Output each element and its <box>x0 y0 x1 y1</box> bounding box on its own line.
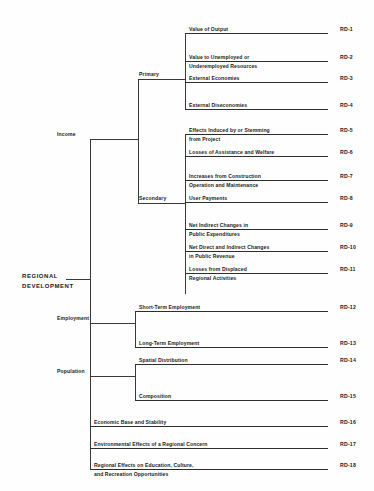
root-connector-line <box>66 279 90 280</box>
leaf-code-rd-12: RD-12 <box>340 304 356 311</box>
leaf-label-rd-8: User Payments <box>189 195 227 202</box>
employment-connector-line <box>90 323 135 324</box>
leaf-label-rd-16: Economic Base and Stability <box>94 419 166 426</box>
leaf-label-rd-6: Losses of Assistance and Welfare <box>189 149 274 156</box>
leaf-code-rd-9: RD-9 <box>340 222 353 229</box>
leaf-code-rd-16: RD-16 <box>340 419 356 426</box>
leaf-code-rd-5: RD-5 <box>340 127 353 134</box>
leaf-code-rd-15: RD-15 <box>340 393 356 400</box>
secondary-leaf-spine-line <box>185 134 186 294</box>
leaf-code-rd-13: RD-13 <box>340 340 356 347</box>
leaf-code-rd-17: RD-17 <box>340 441 356 448</box>
population-connector-line <box>90 376 135 377</box>
leaf-label-rd-14: Spatial Distribution <box>139 357 188 364</box>
leaf-label-rd-2: Value to Unemployed or <box>189 54 249 61</box>
leaf-rule-rd-1 <box>185 33 328 34</box>
leaf-label-rd-15: Composition <box>139 393 171 400</box>
leaf-code-rd-2: RD-2 <box>340 54 353 61</box>
leaf-rule-rd-6 <box>185 156 328 157</box>
leaf-label-rd-7: Increases from Construction <box>189 173 261 180</box>
leaf-rule-rd-2 <box>185 61 328 62</box>
leaf-label-rd-17: Environmental Effects of a Regional Conc… <box>94 441 208 448</box>
leaf-rule-rd-16 <box>90 426 328 427</box>
leaf-rule-rd-17 <box>90 448 328 449</box>
primary-connector-line <box>138 79 185 80</box>
leaf-rule-rd-15 <box>135 400 328 401</box>
leaf-code-rd-6: RD-6 <box>340 149 353 156</box>
income-connector-line <box>90 139 138 140</box>
leaf-code-rd-4: RD-4 <box>340 102 353 109</box>
leaf-label-rd-13: Long-Term Employment <box>139 340 199 347</box>
branch-label-secondary: Secondary <box>139 195 166 202</box>
leaf-label-rd-18: Regional Effects on Education, Culture, <box>94 462 194 469</box>
leaf-rule-rd-11 <box>185 273 328 274</box>
primary-leaf-spine-line <box>185 33 186 109</box>
root-label-development: DEVELOPMENT <box>22 281 74 292</box>
branch-label-income: Income <box>57 131 76 138</box>
leaf-label-rd-10-line2: in Public Revenue <box>189 253 235 260</box>
employment-leaf-spine-line <box>135 311 136 347</box>
leaf-rule-rd-14 <box>135 364 328 365</box>
secondary-connector-line <box>138 203 185 204</box>
leaf-code-rd-8: RD-8 <box>340 195 353 202</box>
population-leaf-spine-line <box>135 364 136 400</box>
leaf-rule-rd-10 <box>185 251 328 252</box>
leaf-label-rd-2-line2: Underemployed Resources <box>189 63 257 70</box>
branch-label-population: Population <box>57 368 85 375</box>
leaf-label-rd-5: Effects Induced by or Stemming <box>189 127 270 134</box>
leaf-rule-rd-3 <box>185 82 328 83</box>
leaf-label-rd-10: Net Direct and Indirect Changes <box>189 244 269 251</box>
leaf-label-rd-12: Short-Term Employment <box>139 304 200 311</box>
branch-label-employment: Employment <box>57 315 89 322</box>
leaf-label-rd-9: Net Indirect Changes in <box>189 222 248 229</box>
leaf-label-rd-11: Losses from Displaced <box>189 266 247 273</box>
leaf-rule-rd-9 <box>185 229 328 230</box>
root-label-regional: REGIONAL <box>22 271 58 282</box>
leaf-label-rd-7-line2: Operation and Maintenance <box>189 182 258 189</box>
leaf-rule-rd-8 <box>185 202 328 203</box>
leaf-label-rd-3: External Economies <box>189 75 240 82</box>
regional-development-tree-diagram: REGIONAL DEVELOPMENT Income Primary Seco… <box>0 0 374 491</box>
leaf-rule-rd-7 <box>185 180 328 181</box>
leaf-rule-rd-12 <box>135 311 328 312</box>
leaf-rule-rd-5 <box>185 134 328 135</box>
leaf-rule-rd-13 <box>135 347 328 348</box>
main-trunk-line <box>90 139 91 469</box>
leaf-label-rd-4: External Diseconomies <box>189 102 247 109</box>
leaf-label-rd-1: Value of Output <box>189 26 228 33</box>
leaf-code-rd-3: RD-3 <box>340 75 353 82</box>
leaf-rule-rd-18 <box>90 469 328 470</box>
leaf-code-rd-1: RD-1 <box>340 26 353 33</box>
leaf-label-rd-18-line2: and Recreation Opportunities <box>94 471 168 478</box>
leaf-label-rd-5-line2: from Project <box>189 136 220 143</box>
leaf-label-rd-11-line2: Regional Activities <box>189 275 236 282</box>
leaf-code-rd-14: RD-14 <box>340 357 356 364</box>
leaf-label-rd-9-line2: Public Expenditures <box>189 231 240 238</box>
income-subspine-line <box>138 79 139 203</box>
leaf-code-rd-18: RD-18 <box>340 462 356 469</box>
leaf-code-rd-10: RD-10 <box>340 244 356 251</box>
leaf-code-rd-11: RD-11 <box>340 266 356 273</box>
leaf-code-rd-7: RD-7 <box>340 173 353 180</box>
branch-label-primary: Primary <box>139 71 159 78</box>
leaf-rule-rd-4 <box>185 109 328 110</box>
